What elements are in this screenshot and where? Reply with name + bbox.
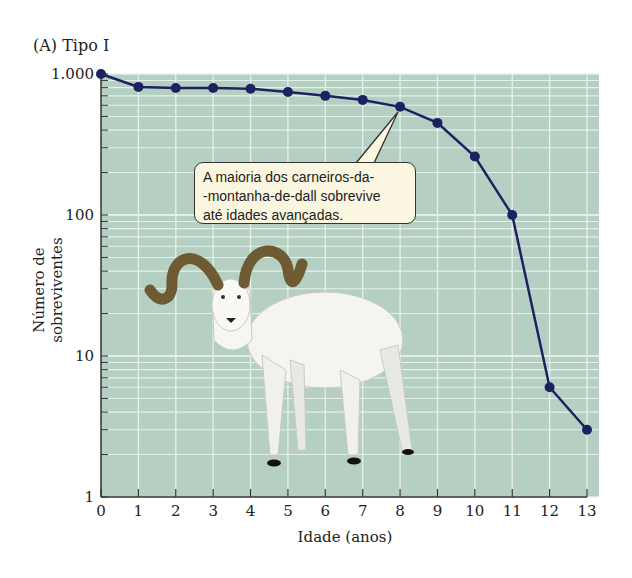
data-point [395, 102, 405, 112]
y-tick-label: 100 [65, 206, 94, 224]
data-point [133, 82, 143, 92]
x-tick-label: 13 [577, 502, 596, 520]
data-point [96, 69, 106, 79]
y-tick-label: 10 [75, 347, 94, 365]
data-point [507, 210, 517, 220]
data-point [208, 83, 218, 93]
x-tick-label: 2 [171, 502, 181, 520]
data-point [246, 84, 256, 94]
x-tick-label: 10 [465, 502, 484, 520]
x-tick-label: 5 [283, 502, 293, 520]
y-tick-label: 1 [84, 488, 94, 506]
x-tick-label: 1 [134, 502, 144, 520]
data-point [582, 425, 592, 435]
data-point [171, 83, 181, 93]
x-tick-label: 11 [503, 502, 522, 520]
data-point [470, 151, 480, 161]
data-point [358, 95, 368, 105]
annotation-callout: A maioria dos carneiros-da- -montanha-de… [194, 162, 416, 224]
data-point [283, 87, 293, 97]
y-tick-label: 1.000 [51, 65, 94, 83]
x-tick-label: 0 [96, 502, 106, 520]
callout-line-1: A maioria dos carneiros-da- [203, 168, 407, 187]
x-tick-label: 6 [321, 502, 331, 520]
data-point [545, 382, 555, 392]
x-tick-label: 7 [358, 502, 368, 520]
x-tick-label: 8 [395, 502, 405, 520]
x-axis-label: Idade (anos) [0, 528, 632, 546]
x-tick-label: 12 [540, 502, 559, 520]
callout-line-3: até idades avançadas. [203, 206, 407, 225]
x-tick-label: 9 [433, 502, 443, 520]
x-tick-label: 4 [246, 502, 256, 520]
x-tick-label: 3 [208, 502, 218, 520]
y-axis-label: Número de sobreviventes [30, 200, 66, 380]
data-point [432, 118, 442, 128]
data-point [320, 91, 330, 101]
survivorship-chart: 1.000100101012345678910111213 [0, 0, 632, 578]
callout-line-2: -montanha-de-dall sobrevive [203, 187, 407, 206]
